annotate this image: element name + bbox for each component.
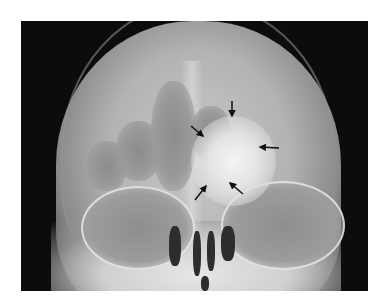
annotation-arrows [0,0,384,306]
arrow-lower-left-icon [195,186,206,200]
arrow-right-icon [260,147,279,148]
arrow-lower-right-icon [230,183,243,194]
arrow-upper-left-icon [191,126,203,136]
